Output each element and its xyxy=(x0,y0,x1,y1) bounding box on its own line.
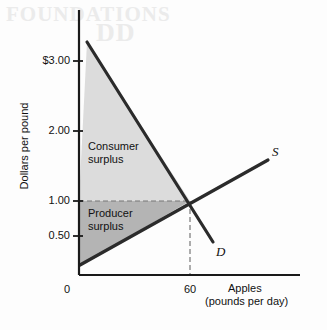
y-tick-label-0-50: 0.50 xyxy=(26,229,70,241)
y-axis-title: Dollars per pound xyxy=(18,86,30,206)
y-tick-label-2-00: 2.00 xyxy=(26,124,70,136)
consumer-surplus-label-line1: Consumer xyxy=(88,140,139,153)
x-tick-label-60: 60 xyxy=(179,283,201,295)
consumer-surplus-label: Consumer surplus xyxy=(88,140,139,166)
y-tick-label-1-00: 1.00 xyxy=(26,194,70,206)
supply-demand-figure: FOUNDATIONS DD $3.00 2.00 1.00 0.50 Doll… xyxy=(0,0,327,330)
supply-curve-label: S xyxy=(272,144,279,160)
x-tick-label-0: 0 xyxy=(56,283,78,295)
producer-surplus-label-line2: surplus xyxy=(88,220,133,233)
chart-plot-area xyxy=(0,0,327,330)
x-axis-title: Apples xyxy=(228,281,262,295)
producer-surplus-label-line1: Producer xyxy=(88,207,133,220)
y-tick-label-3-00: $3.00 xyxy=(26,54,70,66)
demand-curve-label: D xyxy=(216,244,225,260)
consumer-surplus-label-line2: surplus xyxy=(88,153,139,166)
producer-surplus-label: Producer surplus xyxy=(88,207,133,233)
x-axis-subtitle: (pounds per day) xyxy=(205,295,288,307)
